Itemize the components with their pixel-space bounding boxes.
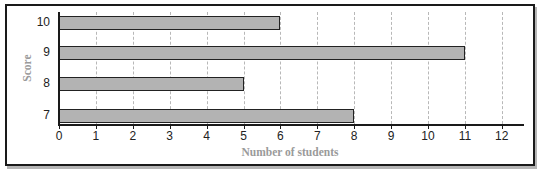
- x-tick-label: 10: [418, 129, 438, 143]
- gridline: [428, 12, 429, 124]
- bar-score-10: [59, 16, 280, 30]
- bar-score-9: [59, 46, 465, 60]
- gridline: [280, 12, 281, 124]
- y-tick-label: 10: [26, 15, 50, 29]
- x-tick-label: 11: [455, 129, 475, 143]
- gridline: [391, 12, 392, 124]
- bar-score-7: [59, 109, 354, 123]
- gridline: [317, 12, 318, 124]
- x-tick-label: 3: [160, 129, 180, 143]
- x-tick-label: 8: [344, 129, 364, 143]
- gridline: [465, 12, 466, 124]
- x-tick-label: 5: [234, 129, 254, 143]
- y-axis-title: Score: [21, 48, 33, 88]
- x-axis-title: Number of students: [180, 146, 400, 158]
- x-axis-line: [58, 124, 524, 126]
- bar-score-8: [59, 77, 244, 91]
- x-tick-label: 9: [381, 129, 401, 143]
- y-axis-line: [58, 12, 60, 125]
- x-tick-label: 0: [49, 129, 69, 143]
- y-tick-label: 7: [26, 108, 50, 122]
- x-tick-label: 6: [270, 129, 290, 143]
- gridline: [502, 12, 503, 124]
- gridline: [354, 12, 355, 124]
- x-tick-label: 12: [492, 129, 512, 143]
- x-tick-label: 4: [197, 129, 217, 143]
- x-tick-label: 1: [86, 129, 106, 143]
- x-tick-label: 2: [123, 129, 143, 143]
- x-tick-label: 7: [307, 129, 327, 143]
